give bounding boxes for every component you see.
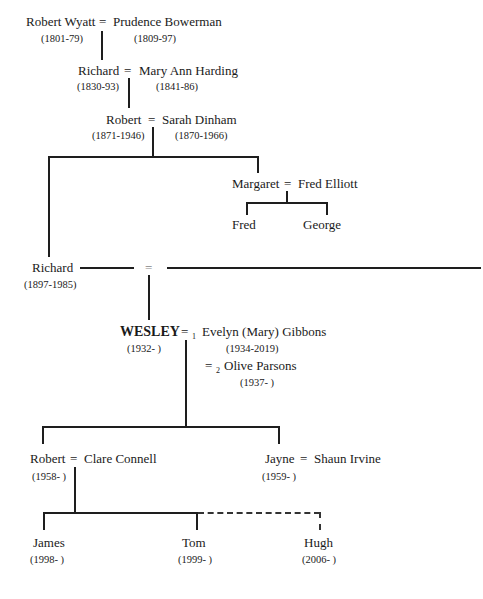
person-shaun-irvine: Shaun Irvine [314, 451, 381, 466]
dates-evelyn-gibbons: (1934-2019) [226, 343, 279, 355]
branch-line-james [43, 512, 45, 530]
branch-line-george [326, 202, 328, 215]
descent-line [128, 78, 130, 108]
marriage-sign: = [70, 451, 77, 466]
person-richard-1897: Richard [32, 260, 73, 275]
marriage-sign: = [145, 260, 152, 275]
person-wesley: WESLEY [120, 324, 180, 339]
dates-robert-1871: (1871-1946) [92, 130, 145, 142]
marriage-sign: = [99, 14, 106, 29]
marriage-sign: = [300, 451, 307, 466]
dates-jayne: (1959- ) [262, 471, 296, 483]
branch-line-margaret [257, 156, 259, 173]
person-mary-ann-harding: Mary Ann Harding [139, 63, 238, 78]
marriage-sign: = [181, 324, 188, 339]
marriage-sign: = [148, 112, 155, 127]
marriage-number-2: 2 [216, 363, 220, 378]
person-jayne: Jayne [265, 451, 295, 466]
dates-robert-1958: (1958- ) [32, 471, 66, 483]
dates-robert-wyatt: (1801-79) [41, 33, 83, 45]
person-prudence-bowerman: Prudence Bowerman [113, 14, 222, 29]
person-george: George [303, 217, 341, 232]
marriage-line-right [167, 267, 481, 269]
descent-line [101, 31, 103, 60]
person-robert-1958: Robert [30, 451, 65, 466]
branch-line-jayne [278, 426, 280, 444]
person-margaret: Margaret [232, 176, 279, 191]
dates-james: (1998- ) [30, 554, 64, 566]
descent-line [152, 127, 154, 157]
dates-richard-1830: (1830-93) [77, 81, 119, 93]
person-tom: Tom [182, 535, 206, 550]
dates-hugh: (2006- ) [302, 554, 336, 566]
sibling-line [43, 512, 198, 514]
marriage-line-left [80, 267, 134, 269]
dates-richard-1897: (1897-1985) [24, 279, 77, 291]
dates-tom: (1999- ) [178, 554, 212, 566]
person-richard-1830: Richard [78, 63, 119, 78]
dashed-sibling-line [198, 512, 320, 514]
person-olive-parsons: Olive Parsons [224, 358, 297, 373]
sibling-line [48, 156, 259, 158]
person-robert-wyatt: Robert Wyatt [26, 14, 95, 29]
branch-line-richard [48, 156, 50, 257]
branch-line-tom [196, 512, 198, 530]
sibling-line [246, 202, 328, 204]
descent-line [148, 275, 150, 320]
marriage-number-1: 1 [192, 329, 196, 344]
person-james: James [33, 535, 65, 550]
descent-line [185, 340, 187, 427]
dashed-branch-line-hugh [319, 512, 321, 530]
descent-line [74, 467, 76, 513]
person-hugh: Hugh [304, 535, 333, 550]
branch-line-robert [42, 426, 44, 444]
person-sarah-dinham: Sarah Dinham [162, 112, 237, 127]
marriage-sign: = [124, 63, 131, 78]
person-clare-connell: Clare Connell [84, 451, 157, 466]
dates-mary-ann-harding: (1841-86) [156, 81, 198, 93]
sibling-line [42, 426, 280, 428]
person-evelyn-gibbons: Evelyn (Mary) Gibbons [202, 324, 326, 339]
dates-sarah-dinham: (1870-1966) [175, 130, 228, 142]
person-fred: Fred [232, 217, 256, 232]
person-fred-elliott: Fred Elliott [298, 176, 358, 191]
dates-olive-parsons: (1937- ) [240, 377, 274, 389]
branch-line-fred [246, 202, 248, 215]
person-robert-1871: Robert [106, 112, 141, 127]
dates-prudence-bowerman: (1809-97) [134, 33, 176, 45]
marriage-sign: = [205, 358, 212, 373]
dates-wesley: (1932- ) [127, 343, 161, 355]
marriage-sign: = [284, 176, 291, 191]
